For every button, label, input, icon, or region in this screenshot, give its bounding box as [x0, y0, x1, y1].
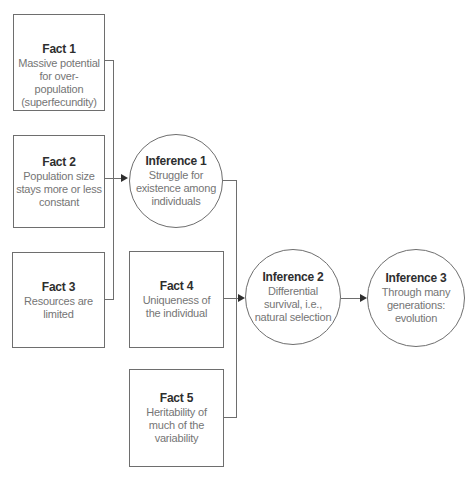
- inference2-title: Inference 2: [262, 270, 323, 284]
- fact4-to-inference2-line: [224, 298, 239, 299]
- fact4-box: Fact 4 Uniqueness of the individual: [129, 251, 224, 348]
- diagram-canvas: Fact 1 Massive potential for over- popul…: [0, 0, 469, 484]
- inference1-connector-line: [223, 180, 237, 181]
- inference2-to-inference3-line: [341, 298, 361, 299]
- fact5-connector-line: [224, 417, 237, 418]
- right-collector-line: [236, 180, 237, 418]
- fact2-box: Fact 2 Population size stays more or les…: [13, 135, 105, 228]
- fact1-box: Fact 1 Massive potential for over- popul…: [13, 14, 105, 111]
- inference3-title: Inference 3: [385, 271, 446, 285]
- inference3-body: Through many generations: evolution: [382, 286, 451, 325]
- fact4-title: Fact 4: [160, 279, 193, 293]
- inference2-body: Differential survival, i.e., natural sel…: [255, 285, 332, 324]
- fact5-title: Fact 5: [160, 391, 193, 405]
- inference1-title: Inference 1: [145, 154, 206, 168]
- fact3-body: Resources are limited: [24, 295, 93, 321]
- inference2-to-inference3-arrowhead-icon: [360, 294, 367, 302]
- fact4-to-inference2-arrowhead-icon: [238, 294, 245, 302]
- left-collector-line: [113, 60, 114, 300]
- fact3-connector-line: [105, 299, 114, 300]
- inference1-circle: Inference 1 Struggle for existence among…: [129, 134, 223, 228]
- inference3-circle: Inference 3 Through many generations: ev…: [367, 249, 465, 347]
- fact5-body: Heritability of much of the variability: [146, 406, 207, 445]
- fact1-body: Massive potential for over- population (…: [18, 57, 100, 109]
- fact2-body: Population size stays more or less const…: [16, 170, 102, 209]
- fact2-to-inference1-line: [105, 178, 122, 179]
- fact4-body: Uniqueness of the individual: [143, 294, 211, 320]
- inference2-circle: Inference 2 Differential survival, i.e.,…: [245, 249, 341, 345]
- fact1-title: Fact 1: [42, 42, 75, 56]
- fact2-to-inference1-arrowhead-icon: [121, 174, 128, 182]
- fact3-box: Fact 3 Resources are limited: [12, 252, 105, 348]
- fact2-title: Fact 2: [42, 155, 75, 169]
- fact3-title: Fact 3: [42, 280, 75, 294]
- fact5-box: Fact 5 Heritability of much of the varia…: [129, 369, 224, 467]
- inference1-body: Struggle for existence among individuals: [136, 169, 216, 208]
